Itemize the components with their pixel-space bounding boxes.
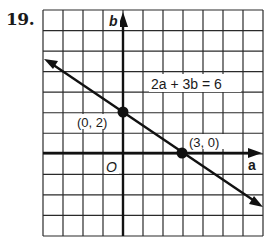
- x-axis-label: a: [248, 157, 256, 173]
- point-0-2: [118, 107, 129, 118]
- x-axis: [43, 148, 262, 158]
- y-axis: [118, 12, 128, 236]
- origin-label: O: [106, 159, 117, 175]
- equation-label: 2a + 3b = 6: [151, 76, 222, 92]
- point-0-2-label: (0, 2): [77, 115, 107, 130]
- point-3-0-label: (3, 0): [189, 135, 219, 150]
- coordinate-graph: 2a + 3b = 6 (0, 2) (3, 0) O a b: [0, 0, 265, 250]
- y-axis-label: b: [109, 13, 118, 29]
- point-3-0: [177, 148, 188, 159]
